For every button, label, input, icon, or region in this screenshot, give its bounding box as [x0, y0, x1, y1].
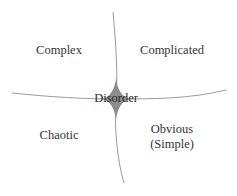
cynefin-diagram: Complex Complicated Chaotic Obvious (Sim… [0, 0, 237, 196]
simple-line: (Simple) [136, 137, 208, 152]
obvious-line: Obvious [136, 122, 208, 137]
domain-label-disorder: Disorder [88, 91, 144, 106]
domain-label-obvious: Obvious (Simple) [136, 122, 208, 152]
domain-label-complex: Complex [26, 43, 92, 58]
domain-label-chaotic: Chaotic [26, 128, 92, 143]
domain-label-complicated: Complicated [130, 43, 214, 58]
